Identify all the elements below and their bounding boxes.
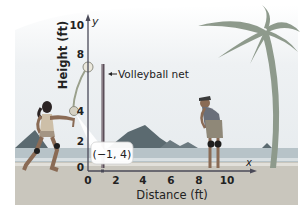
y-tick-8: 8 bbox=[77, 48, 84, 60]
y-tick-2: 2 bbox=[77, 135, 84, 147]
x-tick-6: 6 bbox=[167, 174, 174, 186]
x-tick-8: 8 bbox=[195, 174, 202, 186]
point-label: (−1, 4) bbox=[93, 148, 132, 161]
net-label: Volleyball net bbox=[118, 68, 189, 80]
x-tick-4: 4 bbox=[139, 174, 146, 186]
x-axis-title: Distance (ft) bbox=[136, 188, 207, 202]
x-tick-0: 0 bbox=[84, 174, 91, 186]
y-tick-10: 10 bbox=[69, 19, 84, 31]
x-tick-10: 10 bbox=[220, 174, 235, 186]
x-tick-2: 2 bbox=[112, 174, 119, 186]
x-axis-var: x bbox=[245, 157, 252, 168]
volleyball-diagram: Volleyball net (−1, 4) y x 10 8 4 2 0 0 … bbox=[0, 0, 307, 212]
y-tick-0: 0 bbox=[77, 161, 84, 173]
y-tick-4: 4 bbox=[77, 105, 84, 117]
y-axis-var: y bbox=[91, 15, 99, 28]
y-axis-title: Height (ft) bbox=[56, 21, 70, 89]
